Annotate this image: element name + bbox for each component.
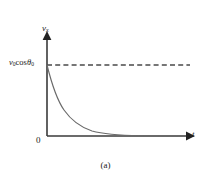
initial-velocity-theta-subscript: 0 — [31, 61, 34, 67]
origin-label: 0 — [36, 136, 41, 145]
figure-container: vx t 0 v0cosθ0 (a) — [0, 0, 211, 186]
figure-caption: (a) — [0, 160, 211, 170]
initial-velocity-annotation: v0cosθ0 — [9, 58, 34, 68]
y-axis-label-subscript: x — [46, 27, 49, 33]
initial-velocity-cos-symbol: cos — [16, 57, 27, 67]
y-axis-label: vx — [42, 24, 49, 34]
velocity-decay-plot — [0, 0, 211, 186]
exponential-decay-curve — [47, 65, 184, 136]
x-axis-label: t — [192, 130, 195, 139]
